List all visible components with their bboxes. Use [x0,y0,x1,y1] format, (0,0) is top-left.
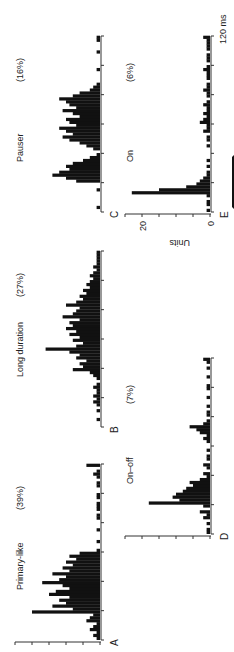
histogram-bar [97,508,100,511]
histogram-bar [207,115,210,118]
histogram-bar [73,112,100,115]
histogram-bar [207,449,210,452]
panel-letter: A [109,639,120,646]
histogram-bar [66,177,100,180]
histogram-bar [207,65,210,68]
histogram-bar [97,188,100,191]
histogram-bar [207,203,210,206]
histogram-bar [186,185,210,188]
histogram-bar [52,572,100,575]
panel-title: On–off [125,457,135,484]
histogram-bar [203,463,210,466]
histogram-bar [93,86,100,89]
histogram-bar [69,587,100,590]
histogram-bar [90,156,100,159]
histogram-bar [97,383,100,386]
histogram-bar [69,350,100,353]
histogram-bar [52,174,100,177]
histogram-bar [207,528,210,531]
histogram-bar [203,472,210,475]
histogram-bar [73,312,100,315]
histogram-bar [66,575,100,578]
histogram-bar [207,159,210,162]
histogram-bar [97,268,100,271]
y-tick-label-0: 0 [206,221,216,226]
histogram-bar [207,413,210,416]
panel-title: Primary-like [15,542,25,590]
histogram-bar [196,428,210,431]
histogram-bar [49,593,100,596]
histogram-bar [97,484,100,487]
histogram-bar [76,345,100,348]
panel-percent: (27%) [15,273,25,297]
histogram-bar [66,304,100,307]
histogram-bar [203,112,210,115]
histogram-bar [80,141,100,144]
histogram-bar [207,522,210,525]
histogram-bar [196,182,210,185]
histogram-bar [97,262,100,265]
panel-c: CPauser(16%) [15,36,120,218]
histogram-bar [76,124,100,127]
histogram-bar [207,135,210,138]
histogram-bar [207,384,210,387]
histogram-bar [97,549,100,552]
histogram-bar [207,71,210,74]
histogram-bar [90,274,100,277]
histogram-bar [93,271,100,274]
histogram-bar [176,493,210,496]
histogram-bar [207,411,210,414]
histogram-bar [90,280,100,283]
histogram-bar [80,115,100,118]
y-axis-label: Units [169,238,190,248]
histogram-bar [83,298,100,301]
histogram-bar [207,74,210,77]
histogram-bar [207,171,210,174]
histogram-bar [207,367,210,370]
histogram-bar [80,318,100,321]
histogram-bar [203,36,210,39]
histogram-bar [97,50,100,53]
histogram-bar [63,315,100,318]
histogram-bar [69,103,100,106]
psth-figure: APrimary-like(39%)BLong duration(27%)CPa… [0,0,234,652]
histogram-bar [207,466,210,469]
histogram-bar [203,177,210,180]
histogram-bar [93,400,100,403]
histogram-bar [76,330,100,333]
histogram-bar [173,496,210,499]
histogram-bar [207,59,210,62]
histogram-bar [97,153,100,156]
histogram-bar [69,138,100,141]
histogram-bar [93,277,100,280]
histogram-bar [203,437,210,440]
histogram-bar [207,457,210,460]
histogram-bar [97,377,100,380]
histogram-bar [200,121,210,124]
histogram-bar [207,53,210,56]
histogram-bar [97,418,100,421]
histogram-bar [207,405,210,408]
histogram-bar [207,209,210,212]
histogram-bar [63,109,100,112]
histogram-bar [80,336,100,339]
panel-percent: (7%) [125,385,135,404]
histogram-bar [207,86,210,89]
histogram-bar [159,188,210,191]
histogram-bar [97,39,100,42]
histogram-bar [93,394,100,397]
histogram-bar [179,499,210,502]
histogram-bar [66,165,100,168]
histogram-bar [207,91,210,94]
histogram-bar [203,118,210,121]
histogram-bar [69,168,100,171]
histogram-bar [207,194,210,197]
histogram-bar [97,68,100,71]
histogram-bar [83,159,100,162]
histogram-bar [93,386,100,389]
histogram-bar [97,475,100,478]
histogram-bar [207,138,210,141]
histogram-bar [132,191,210,194]
histogram-bar [207,39,210,42]
histogram-bar [203,89,210,92]
